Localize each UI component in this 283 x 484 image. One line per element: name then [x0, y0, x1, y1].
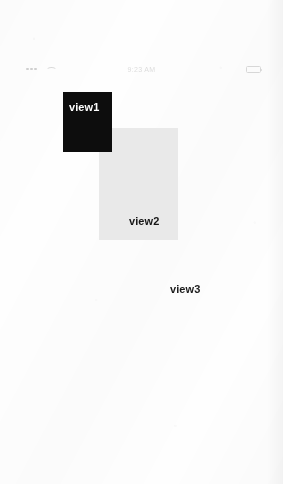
app-canvas: 9:23 AM view1 view2 view3 — [0, 0, 283, 484]
view3-label: view3 — [170, 283, 200, 295]
status-bar-time: 9:23 AM — [0, 66, 283, 73]
view1-label: view1 — [69, 101, 99, 113]
status-bar-right — [242, 66, 261, 73]
battery-icon — [246, 66, 261, 73]
view1-rectangle[interactable]: view1 — [63, 92, 112, 152]
view2-label: view2 — [129, 215, 159, 227]
status-bar: 9:23 AM — [0, 61, 283, 77]
